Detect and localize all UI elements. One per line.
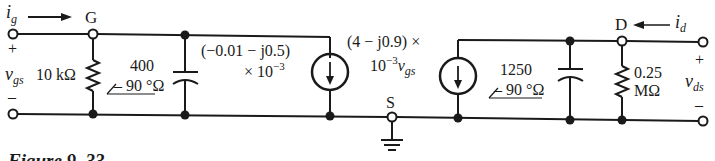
vds-minus: – xyxy=(694,96,704,113)
junction-dot xyxy=(566,116,575,125)
ig-label: ig xyxy=(6,2,17,26)
source-node xyxy=(388,113,397,122)
top-wire-output xyxy=(626,41,699,42)
source2-scale: 10−3vgs xyxy=(370,54,416,78)
source2-coefficient: (4 − j0.9) × xyxy=(347,33,420,51)
input-terminal-top xyxy=(9,30,18,39)
rds-unit: MΩ xyxy=(634,82,660,99)
junction-dot xyxy=(326,112,335,121)
vgs-label: vgs xyxy=(5,64,24,87)
gate-node xyxy=(89,30,98,39)
output-terminal-top xyxy=(699,38,708,47)
vds-plus: + xyxy=(695,51,704,68)
ig-arrow-icon xyxy=(61,13,72,21)
arrow-down-icon xyxy=(326,76,334,85)
drain-node xyxy=(618,37,627,46)
junction-dot xyxy=(454,114,463,123)
fet-equivalent-circuit: ig + vgs – G 10 kΩ 400 – 90 °Ω (−0.01 − … xyxy=(0,0,715,161)
ground-icon xyxy=(381,140,403,150)
resistor-rds-icon xyxy=(616,66,628,97)
id-arrow-icon xyxy=(633,21,644,29)
top-wire-drain xyxy=(458,40,618,41)
cds-angle: – 90 °Ω xyxy=(493,81,544,98)
figure-caption: Figure 9–33 xyxy=(7,150,105,161)
output-terminal-bottom xyxy=(699,117,708,126)
gate-label: G xyxy=(85,8,97,27)
junction-dot xyxy=(181,111,190,120)
cgs-angle: – 90 °Ω xyxy=(113,77,164,94)
junction-dot xyxy=(618,116,627,125)
top-wire-gate xyxy=(97,34,330,37)
source-label: S xyxy=(386,94,395,111)
junction-dot xyxy=(181,31,190,40)
drain-label: D xyxy=(615,15,627,34)
vgs-minus: – xyxy=(7,88,17,105)
id-label: id xyxy=(675,12,687,35)
cgs-magnitude: 400 xyxy=(130,57,154,74)
bottom-wire-right xyxy=(396,117,699,121)
vgs-plus: + xyxy=(8,40,17,57)
arrow-down-icon xyxy=(454,80,462,89)
resistor-rgs-icon xyxy=(87,60,99,91)
rgs-value: 10 kΩ xyxy=(36,66,76,83)
rds-value: 0.25 xyxy=(634,64,662,81)
junction-dot xyxy=(566,37,575,46)
source1-scale: × 10−3 xyxy=(244,60,285,80)
cds-magnitude: 1250 xyxy=(500,61,532,78)
source1-coefficient: (−0.01 − j0.5) xyxy=(201,42,290,60)
vds-label: vds xyxy=(685,71,704,94)
junction-dot xyxy=(89,110,98,119)
input-terminal-bottom xyxy=(9,110,18,119)
